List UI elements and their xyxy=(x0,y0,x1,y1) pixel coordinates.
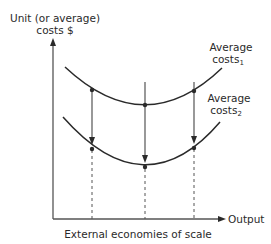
point-c2-left xyxy=(90,147,94,151)
curve1-label-main: Average xyxy=(209,41,252,53)
curve2-label-main: Average xyxy=(207,92,250,104)
point-c1-right xyxy=(192,89,196,93)
y-axis-label-line2: costs $ xyxy=(36,24,73,36)
curve1-subscript: 1 xyxy=(239,59,243,67)
average-costs-2-curve xyxy=(63,117,220,165)
average-costs-1-curve xyxy=(65,67,222,105)
point-c2-right xyxy=(192,146,196,150)
external-economies-diagram: Unit (or average) costs $ Average costs1… xyxy=(0,0,271,244)
curve2-subscript: 2 xyxy=(237,110,241,118)
x-axis-label: Output xyxy=(228,213,264,225)
curve2-label-costs: costs2 xyxy=(210,104,242,118)
y-axis-label-line1: Unit (or average) xyxy=(10,12,100,24)
curve2-costs-text: costs xyxy=(210,104,237,116)
point-c2-middle xyxy=(143,165,147,169)
curve1-label-costs: costs1 xyxy=(212,53,244,67)
x-caption: External economies of scale xyxy=(64,228,212,240)
point-c1-middle xyxy=(143,103,147,107)
point-c1-left xyxy=(90,88,94,92)
curve1-costs-text: costs xyxy=(212,53,239,65)
